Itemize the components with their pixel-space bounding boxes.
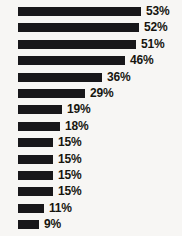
bar-row: 11% <box>18 204 72 213</box>
bar-row: 18% <box>18 122 88 131</box>
bar <box>18 171 53 180</box>
bar-row: 51% <box>18 40 164 49</box>
bar-value-label: 15% <box>58 138 81 147</box>
bar-value-label: 52% <box>144 23 167 32</box>
bar-value-label: 11% <box>49 204 72 213</box>
bar-value-label: 19% <box>67 105 90 114</box>
bar-value-label: 46% <box>130 56 153 65</box>
bar-row: 36% <box>18 73 130 82</box>
bar-row: 29% <box>18 89 113 98</box>
bar-value-label: 51% <box>141 40 164 49</box>
bar <box>18 40 136 49</box>
bar-value-label: 9% <box>44 220 61 229</box>
bar-row: 15% <box>18 155 81 164</box>
bar-row: 15% <box>18 187 81 196</box>
bar-row: 19% <box>18 105 90 114</box>
bar <box>18 155 53 164</box>
bar-value-label: 15% <box>58 187 81 196</box>
bar-row: 15% <box>18 138 81 147</box>
bar <box>18 73 102 82</box>
bar <box>18 89 85 98</box>
bar-value-label: 18% <box>65 122 88 131</box>
bar-row: 9% <box>18 220 61 229</box>
bar <box>18 122 60 131</box>
bar <box>18 187 53 196</box>
bar-row: 53% <box>18 7 169 16</box>
bar <box>18 204 44 213</box>
bar-value-label: 36% <box>107 73 130 82</box>
bar <box>18 138 53 147</box>
bar-chart: t 53%52%51%46%36%29%19%18%15%15%15%15%11… <box>0 0 182 236</box>
bar-row: 52% <box>18 23 167 32</box>
bar-value-label: 29% <box>90 89 113 98</box>
bar-value-label: 53% <box>146 7 169 16</box>
bar-series: 53%52%51%46%36%29%19%18%15%15%15%15%11%9… <box>0 0 182 236</box>
bar-value-label: 15% <box>58 171 81 180</box>
bar-value-label: 15% <box>58 155 81 164</box>
bar-row: 46% <box>18 56 153 65</box>
bar <box>18 220 39 229</box>
bar <box>18 7 141 16</box>
bar <box>18 105 62 114</box>
bar <box>18 23 139 32</box>
bar <box>18 56 125 65</box>
bar-row: 15% <box>18 171 81 180</box>
